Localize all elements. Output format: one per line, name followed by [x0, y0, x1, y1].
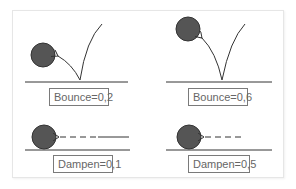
ball — [177, 125, 201, 149]
ball — [176, 17, 200, 41]
label-bounce-high: Bounce=0,6 — [188, 88, 248, 106]
incoming-trajectory — [80, 24, 102, 80]
panel-dampen-high — [166, 125, 272, 150]
panel-bounce-low — [25, 24, 128, 82]
label-dampen-high: Dampen=0,5 — [188, 155, 250, 173]
ball — [32, 125, 56, 149]
bounce-arrow — [202, 38, 222, 80]
panel-dampen-low — [25, 125, 130, 150]
label-dampen-low: Dampen=0,1 — [53, 155, 113, 173]
incoming-trajectory — [222, 24, 245, 80]
panel-bounce-high — [166, 17, 272, 82]
bounce-arrow — [58, 56, 80, 80]
label-bounce-low: Bounce=0,2 — [49, 88, 109, 106]
ball — [31, 43, 55, 67]
